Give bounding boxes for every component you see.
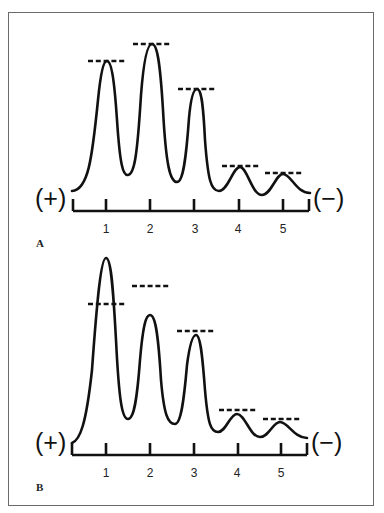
panel-a-tick-label: 5 bbox=[280, 222, 287, 236]
panel-a-label: A bbox=[36, 237, 44, 249]
panel-a-anode-label: (+) bbox=[35, 186, 66, 211]
panel-b-tick-label: 5 bbox=[278, 466, 285, 480]
panel-b-trace bbox=[72, 258, 307, 443]
panel-a-tick-label: 3 bbox=[192, 222, 199, 236]
panel-b-tick-label: 3 bbox=[191, 466, 198, 480]
panel-a-tick-label: 4 bbox=[235, 222, 242, 236]
panel-b-label: B bbox=[36, 481, 43, 493]
panel-b-axis bbox=[72, 443, 307, 455]
panel-a-chart bbox=[72, 44, 310, 211]
panel-b-anode-label: (+) bbox=[35, 430, 66, 455]
panel-b-tick-label: 4 bbox=[234, 466, 241, 480]
panel-b-cathode-label: (−) bbox=[311, 430, 342, 455]
panel-a-cathode-label: (−) bbox=[313, 186, 344, 211]
panel-a-tick-label: 1 bbox=[103, 222, 110, 236]
panel-a-axis bbox=[73, 199, 309, 211]
panel-a-tick-label: 2 bbox=[147, 222, 154, 236]
panel-b-chart bbox=[72, 258, 307, 455]
panel-b-tick-label: 2 bbox=[147, 466, 154, 480]
panel-b-tick-label: 1 bbox=[103, 466, 110, 480]
